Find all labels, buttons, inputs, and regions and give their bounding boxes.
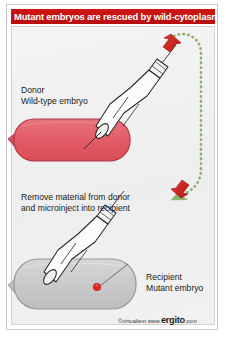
- credit-brand: ergito: [161, 315, 185, 325]
- recipient-role-label: Recipient: [146, 272, 203, 283]
- donor-description-label: Wild-type embryo: [21, 96, 88, 107]
- figure-title-bar: Mutant embryos are rescued by wild-cytop…: [11, 9, 215, 24]
- procedure-step-label: Remove material from donor and microinje…: [21, 192, 130, 213]
- credit-line: ©virtualtext www.ergito.com: [118, 309, 197, 327]
- recipient-description-label: Mutant embryo: [146, 283, 203, 294]
- page-title: Mutant embryos are rescued by wild-cytop…: [14, 11, 215, 22]
- procedure-step-line2: and microinject into recipient: [21, 203, 130, 214]
- figure-container: Mutant embryos are rescued by wild-cytop…: [0, 0, 226, 338]
- copyright-text: ©virtualtext: [118, 318, 146, 324]
- credit-www: www.: [148, 318, 161, 324]
- procedure-step-line1: Remove material from donor: [21, 192, 130, 203]
- recipient-label-group: Recipient Mutant embryo: [146, 272, 203, 293]
- donor-label-group: Donor Wild-type embryo: [21, 85, 88, 106]
- credit-tld: .com: [185, 318, 197, 324]
- donor-role-label: Donor: [21, 85, 88, 96]
